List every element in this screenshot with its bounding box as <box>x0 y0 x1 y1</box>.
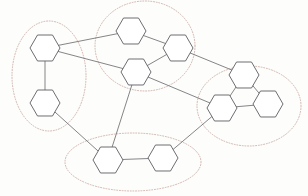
graph-edge <box>58 34 118 46</box>
graph-edge <box>235 105 255 107</box>
graph-edge <box>112 84 132 147</box>
graph-edge <box>252 85 259 94</box>
node-layer <box>30 18 283 173</box>
graph-edge <box>147 54 166 65</box>
hexagon-icon <box>30 35 60 61</box>
graph-edge <box>121 158 150 159</box>
graph-node-n3[interactable] <box>116 18 146 44</box>
graph-edge <box>143 35 165 43</box>
diagram-canvas <box>0 0 308 196</box>
graph-edge <box>190 53 232 70</box>
graph-node-n4[interactable] <box>163 35 193 61</box>
graph-edge <box>229 86 237 97</box>
graph-node-n8[interactable] <box>253 91 283 117</box>
hexagon-icon <box>253 91 283 117</box>
hexagon-icon <box>121 59 151 85</box>
graph-node-n5[interactable] <box>121 59 151 85</box>
graph-edge <box>58 51 124 68</box>
hexagon-icon <box>163 35 193 61</box>
hexagon-icon <box>229 62 259 88</box>
cluster-boundary-cluster-bottom <box>65 133 201 191</box>
graph-edge <box>173 116 212 149</box>
graph-node-n1[interactable] <box>30 35 60 61</box>
graph-svg <box>0 0 308 196</box>
graph-edge <box>55 112 99 151</box>
graph-node-n6[interactable] <box>229 62 259 88</box>
hexagon-icon <box>116 18 146 44</box>
